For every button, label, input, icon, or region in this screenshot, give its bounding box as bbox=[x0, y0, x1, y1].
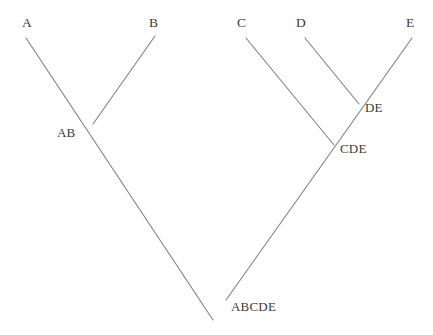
internal-node-label-ab: AB bbox=[57, 126, 75, 139]
tree-branch-canvas bbox=[0, 0, 433, 335]
internal-node-label-de: DE bbox=[365, 101, 383, 114]
branch-line-d-to-de bbox=[305, 38, 359, 104]
taxon-label-c: C bbox=[237, 16, 246, 29]
branch-line-c-to-cde bbox=[246, 38, 334, 145]
taxon-label-b: B bbox=[149, 16, 158, 29]
cladogram-diagram: A B C D E AB DE CDE ABCDE bbox=[0, 0, 433, 335]
internal-node-label-abcde: ABCDE bbox=[231, 300, 276, 313]
branch-line-e-to-root bbox=[226, 38, 412, 300]
taxon-label-a: A bbox=[22, 16, 32, 29]
branch-line-a-to-root bbox=[26, 38, 213, 320]
internal-node-label-cde: CDE bbox=[340, 142, 367, 155]
taxon-label-d: D bbox=[296, 16, 306, 29]
branch-line-b-to-ab bbox=[93, 36, 155, 124]
taxon-label-e: E bbox=[406, 16, 414, 29]
